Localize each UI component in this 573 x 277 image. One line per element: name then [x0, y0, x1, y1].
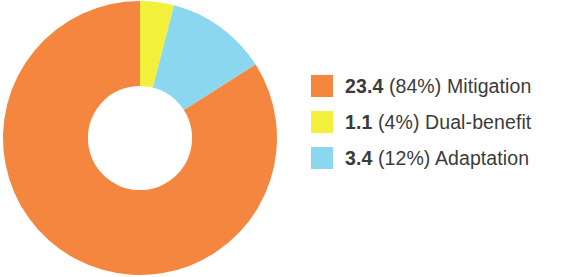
legend-label-dual-benefit: 1.1 (4%) Dual-benefit [345, 111, 531, 134]
donut-chart-svg [0, 0, 290, 277]
legend-swatch-dual-benefit-icon [311, 111, 333, 133]
legend-label-mitigation: 23.4 (84%) Mitigation [345, 75, 531, 98]
legend-item-adaptation[interactable]: 3.4 (12%) Adaptation [311, 140, 573, 176]
legend-detail-adaptation: (12%) Adaptation [372, 147, 529, 169]
chart-legend: 23.4 (84%) Mitigation 1.1 (4%) Dual-bene… [311, 68, 573, 188]
legend-value-mitigation: 23.4 [345, 75, 383, 97]
legend-label-adaptation: 3.4 (12%) Adaptation [345, 147, 529, 170]
legend-detail-mitigation: (84%) Mitigation [383, 75, 531, 97]
donut-chart-area [0, 0, 290, 277]
legend-value-dual-benefit: 1.1 [345, 111, 372, 133]
donut-chart-figure: 23.4 (84%) Mitigation 1.1 (4%) Dual-bene… [0, 0, 573, 277]
legend-item-mitigation[interactable]: 23.4 (84%) Mitigation [311, 68, 573, 104]
legend-value-adaptation: 3.4 [345, 147, 372, 169]
legend-item-dual-benefit[interactable]: 1.1 (4%) Dual-benefit [311, 104, 573, 140]
donut-center-hole [88, 86, 192, 190]
legend-swatch-mitigation-icon [311, 75, 333, 97]
legend-detail-dual-benefit: (4%) Dual-benefit [372, 111, 531, 133]
legend-swatch-adaptation-icon [311, 147, 333, 169]
